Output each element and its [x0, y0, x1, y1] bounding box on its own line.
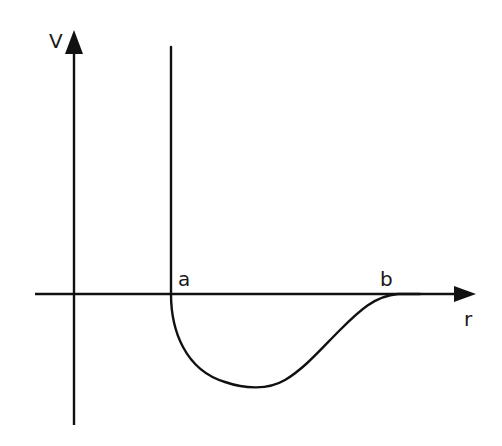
r-axis-label: r: [464, 307, 473, 331]
marker-a-label: a: [178, 267, 190, 291]
marker-b-label: b: [380, 267, 393, 291]
potential-diagram: V r a b: [0, 0, 502, 446]
v-axis-label: V: [49, 29, 63, 53]
background: [0, 0, 502, 446]
